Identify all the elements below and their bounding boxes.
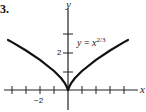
y-axis-label: y [66,0,71,10]
x-tick-label-neg2: −2 [34,97,43,105]
problem-number: 3. [0,2,9,17]
graph [0,0,146,112]
x-axis-label: x [140,84,145,95]
equation-label: y = x2/3 [77,37,106,48]
equation-equals: = [81,37,92,48]
equation-exponent: 2/3 [97,36,106,44]
y-tick-label-2: 2 [57,49,61,57]
